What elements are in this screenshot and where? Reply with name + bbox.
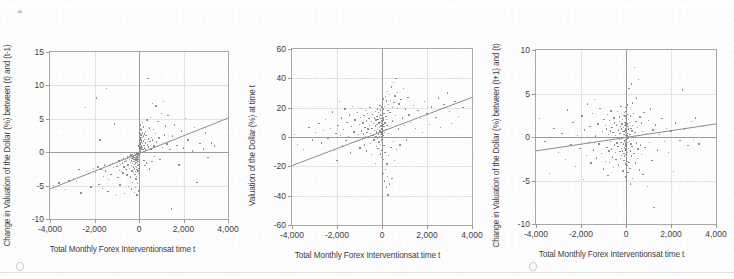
scanned-page: the Determinant and Con ⚭ Change in Valu…: [0, 0, 734, 279]
x-tick-label: -2,000: [325, 230, 349, 240]
y-tick-label: -20: [274, 161, 286, 171]
y-tick-label: -10: [518, 219, 530, 229]
x-tick: [50, 219, 51, 223]
y-tick: [532, 224, 536, 225]
trendline: [292, 97, 472, 165]
trendline-layer: [292, 49, 472, 225]
x-tick: [671, 224, 672, 228]
x-tick: [536, 224, 537, 228]
panel-3-y-axis-title: Change in Valuation of the Dollar (%) be…: [489, 18, 503, 273]
x-tick-label: 0: [624, 229, 629, 239]
x-tick: [382, 225, 383, 229]
y-tick-label: 10: [35, 80, 44, 90]
x-tick: [626, 224, 627, 228]
x-tick-label: 0: [380, 230, 385, 240]
x-tick: [184, 219, 185, 223]
page-bottom-rule: [0, 272, 734, 273]
trendline: [536, 124, 716, 151]
y-tick: [288, 225, 292, 226]
scatter-panel-1: Change in Valuation of the Dollar (%) be…: [0, 18, 245, 273]
panel-1-y-axis-title: Change in Valuation of the Dollar (%) be…: [0, 18, 14, 273]
x-tick: [337, 225, 338, 229]
y-tick-label: 10: [521, 45, 530, 55]
x-tick-label: 2,000: [173, 224, 194, 234]
x-tick-label: 2,000: [660, 229, 681, 239]
y-tick-label: 0: [281, 132, 286, 142]
panel-3-x-axis-title: Total Monthly Forex Interventionsat time…: [489, 250, 734, 259]
y-tick-label: -40: [274, 191, 286, 201]
x-tick-label: 4,000: [461, 230, 482, 240]
x-tick-label: -4,000: [38, 224, 62, 234]
y-tick-label: 20: [277, 103, 286, 113]
x-tick-label: -2,000: [82, 224, 106, 234]
x-tick: [228, 219, 229, 223]
x-tick: [292, 225, 293, 229]
y-tick-label: -10: [32, 214, 44, 224]
scan-speck-icon: ⚭: [16, 9, 25, 16]
y-tick-label: 15: [35, 47, 44, 57]
y-tick-label: 60: [277, 44, 286, 54]
y-tick-label: 0: [39, 147, 44, 157]
y-tick-label: 5: [39, 114, 44, 124]
x-tick: [472, 225, 473, 229]
x-tick: [95, 219, 96, 223]
x-tick-label: -4,000: [280, 230, 304, 240]
x-tick: [139, 219, 140, 223]
trendline: [50, 118, 228, 189]
y-tick-label: -5: [36, 181, 44, 191]
y-tick: [46, 219, 50, 220]
trendline-layer: [536, 50, 716, 224]
scatter-panel-2: Valuation of the Dollar (%) at time t -4…: [245, 18, 490, 273]
running-heading-text: the Determinant and Con: [18, 0, 186, 4]
y-tick-label: -5: [522, 176, 530, 186]
x-tick-label: -4,000: [524, 229, 548, 239]
y-tick-label: 40: [277, 73, 286, 83]
x-tick-label: 4,000: [217, 224, 238, 234]
panel-2-x-axis-title: Total Monthly Forex Interventionsat time…: [245, 251, 490, 260]
x-tick-label: -2,000: [569, 229, 593, 239]
panel-2-plot-area: -4,000-2,00002,0004,000-60-40-200204060: [291, 48, 473, 226]
panel-2-y-axis-title: Valuation of the Dollar (%) at time t: [245, 18, 259, 273]
running-heading: the Determinant and Con: [18, 0, 348, 6]
panel-1-plot-area: -4,000-2,00002,0004,000-10-5051015: [49, 51, 229, 220]
scan-artifact-left: [16, 262, 24, 271]
x-tick: [427, 225, 428, 229]
y-tick-label: -60: [274, 220, 286, 230]
x-tick-label: 2,000: [416, 230, 437, 240]
x-tick: [716, 224, 717, 228]
x-tick-label: 4,000: [705, 229, 726, 239]
panel-3-plot-area: -4,000-2,00002,0004,000-10-50510: [535, 49, 717, 225]
scatter-panel-3: Change in Valuation of the Dollar (%) be…: [489, 18, 734, 273]
x-tick: [581, 224, 582, 228]
scan-artifact-right: [529, 262, 537, 271]
y-tick-label: 0: [525, 132, 530, 142]
trendline-layer: [50, 52, 228, 219]
y-tick-label: 5: [525, 89, 530, 99]
panel-1-x-axis-title: Total Monthly Forex Interventionsat time…: [0, 245, 245, 254]
x-tick-label: 0: [137, 224, 142, 234]
